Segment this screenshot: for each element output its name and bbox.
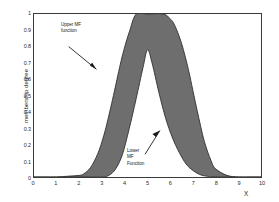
y-tick-label: 0 <box>4 175 31 181</box>
lower-mf-arrow-head <box>152 131 159 137</box>
x-axis-tick-labels: 012345678910 <box>33 180 262 190</box>
x-tick-label: 7 <box>192 180 195 186</box>
y-tick-label: 0.3 <box>4 126 31 132</box>
y-tick-label: 0.5 <box>4 93 31 99</box>
x-tick-label: 9 <box>238 180 241 186</box>
x-tick-label: 1 <box>54 180 57 186</box>
y-tick-label: 0.8 <box>4 43 31 49</box>
x-tick-label: 3 <box>100 180 103 186</box>
x-tick-label: 5 <box>146 180 149 186</box>
y-tick-label: 0.4 <box>4 109 31 115</box>
y-tick-label: 0.9 <box>4 27 31 33</box>
x-tick-label: 8 <box>215 180 218 186</box>
x-tick-label: 6 <box>169 180 172 186</box>
y-tick-label: 0.2 <box>4 142 31 148</box>
x-tick-label: 4 <box>123 180 126 186</box>
x-tick-label: 0 <box>31 180 34 186</box>
y-tick-label: 0.1 <box>4 159 31 165</box>
upper-mf-annotation: Upper MF function <box>61 22 107 35</box>
x-tick-label: 2 <box>77 180 80 186</box>
y-axis-tick-labels: 00.10.20.30.40.50.60.70.80.91 <box>0 13 31 178</box>
upper-mf-arrow-head <box>90 62 96 69</box>
y-tick-label: 0.7 <box>4 60 31 66</box>
figure-canvas: membership degree 00.10.20.30.40.50.60.7… <box>0 0 279 202</box>
y-tick-label: 1 <box>4 10 31 16</box>
x-axis-label: X <box>244 190 248 197</box>
y-tick-label: 0.6 <box>4 76 31 82</box>
x-tick-label: 10 <box>259 180 265 186</box>
lower-mf-annotation: Lower MF Function <box>127 148 167 167</box>
